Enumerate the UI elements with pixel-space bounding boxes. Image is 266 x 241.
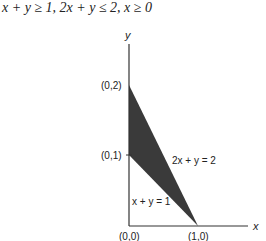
line-label-2x-y-2: 2x + y = 2 (172, 155, 216, 166)
line-label-x-y-1: x + y = 1 (132, 196, 171, 207)
point-label-0-0: (0,0) (119, 231, 140, 241)
y-axis-label: y (124, 29, 132, 41)
x-axis-label: x (252, 220, 259, 232)
point-label-0-1: (0,1) (101, 150, 122, 161)
feasible-region-plot: y x (0,2) (0,1) (0,0) (1,0) 2x + y = 2 x… (0, 0, 266, 241)
point-label-1-0: (1,0) (188, 231, 209, 241)
point-label-0-2: (0,2) (101, 80, 122, 91)
